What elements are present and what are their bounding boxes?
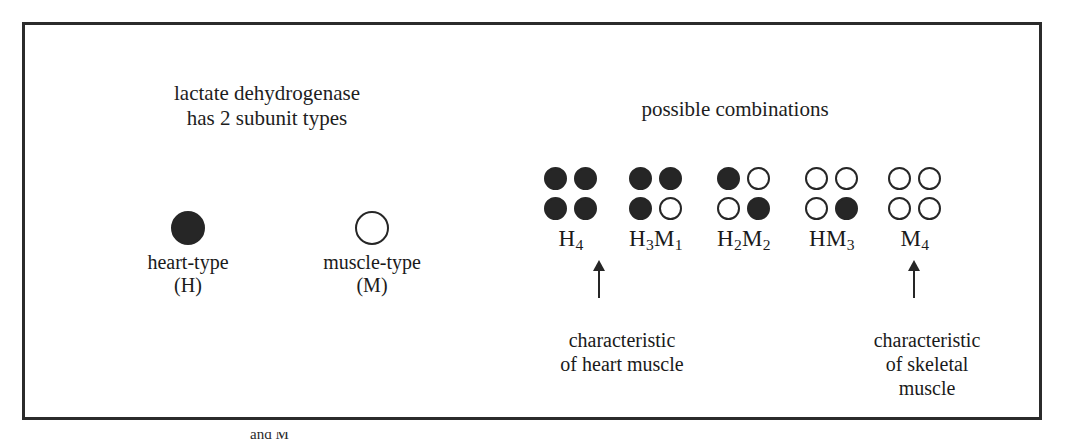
subunit-heart <box>835 197 858 220</box>
tetramer-label-sub: 4 <box>575 236 583 253</box>
arrow-shaft <box>598 268 600 298</box>
tetramer-grid <box>544 167 598 221</box>
tetramer-label-h3m1: H3M1 <box>621 226 691 252</box>
subunit-heart <box>574 167 597 190</box>
tetramer-label-m4: M4 <box>880 226 950 252</box>
tetramer-label-sub: 3 <box>646 236 654 253</box>
tetramer-h4: H4 <box>536 167 606 252</box>
legend-label-heart-type: heart-type (H) <box>103 251 273 297</box>
subunit-heart <box>747 197 770 220</box>
arrow-up-icon-heart <box>589 260 609 298</box>
arrow-up-icon-skeletal <box>904 260 924 298</box>
subunit-muscle <box>888 167 911 190</box>
arrow-shaft <box>913 268 915 298</box>
open-circle-icon <box>355 211 389 245</box>
subunit-heart <box>629 167 652 190</box>
legend-item-muscle-type: muscle-type (M) <box>287 211 457 297</box>
legend-item-heart-type: heart-type (H) <box>103 211 273 297</box>
tetramer-label-main: H <box>558 226 575 251</box>
tetramer-label-main2: M <box>826 226 847 251</box>
callout-characteristic-of-heart-muscle: characteristic of heart muscle <box>492 328 752 376</box>
subunit-muscle <box>717 197 740 220</box>
subunit-muscle <box>805 167 828 190</box>
subunit-muscle <box>805 197 828 220</box>
tetramer-label-h2m2: H2M2 <box>709 226 779 252</box>
subunit-muscle <box>659 197 682 220</box>
tetramer-m4: M4 <box>880 167 950 252</box>
subunit-heart <box>629 197 652 220</box>
tetramer-label-main2: M <box>654 226 675 251</box>
heading-subunit-types: lactate dehydrogenase has 2 subunit type… <box>117 81 417 131</box>
tetramer-grid <box>717 167 771 221</box>
tetramer-label-main2: M <box>742 226 763 251</box>
filled-circle-icon <box>171 211 205 245</box>
subunit-heart <box>574 197 597 220</box>
tetramer-label-sub2: 1 <box>675 236 683 253</box>
tetramer-label-h4: H4 <box>536 226 606 252</box>
legend-label-muscle-type: muscle-type (M) <box>287 251 457 297</box>
figure-frame: lactate dehydrogenase has 2 subunit type… <box>22 22 1042 420</box>
tetramer-h3m1: H3M1 <box>621 167 691 252</box>
subunit-muscle <box>918 197 941 220</box>
subunit-muscle <box>747 167 770 190</box>
tetramer-label-sub: 2 <box>734 236 742 253</box>
tetramer-grid <box>888 167 942 221</box>
subunit-heart <box>717 167 740 190</box>
callout-characteristic-of-skeletal-muscle: characteristic of skeletal muscle <box>797 328 1057 400</box>
tetramer-label-hm3: HM3 <box>797 226 867 252</box>
subunit-heart <box>544 197 567 220</box>
tetramer-label-sub2: 2 <box>763 236 771 253</box>
caption-strip: and M <box>0 432 1066 446</box>
tetramer-label-sub: 4 <box>921 236 929 253</box>
tetramer-label-sub2: 3 <box>847 236 855 253</box>
tetramer-h2m2: H2M2 <box>709 167 779 252</box>
tetramer-grid <box>805 167 859 221</box>
subunit-heart <box>659 167 682 190</box>
subunit-heart <box>544 167 567 190</box>
tetramer-label-main: H <box>629 226 646 251</box>
tetramer-label-main: H <box>809 226 826 251</box>
subunit-muscle <box>918 167 941 190</box>
subunit-muscle <box>835 167 858 190</box>
heading-possible-combinations: possible combinations <box>585 97 885 122</box>
tetramer-label-main: M <box>901 226 922 251</box>
subunit-muscle <box>888 197 911 220</box>
tetramer-grid <box>629 167 683 221</box>
tetramer-hm3: HM3 <box>797 167 867 252</box>
caption-fragment: and M <box>250 432 1050 443</box>
tetramer-label-main: H <box>717 226 734 251</box>
